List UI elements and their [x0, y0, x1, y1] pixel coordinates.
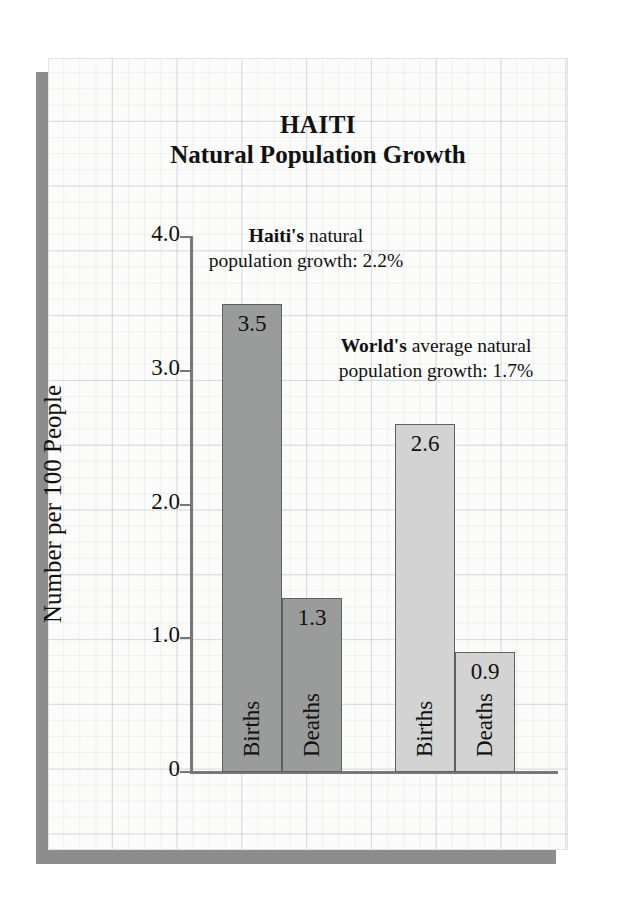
bar-category-label: Births: [239, 701, 265, 757]
bar-category-label: Deaths: [299, 693, 325, 757]
chart-page: HAITI Natural Population Growth Haiti's …: [0, 0, 636, 908]
bar-value-label: 1.3: [283, 605, 341, 631]
bar: 3.5Births: [222, 304, 282, 772]
bar-value-label: 0.9: [456, 659, 514, 685]
bar-category-label: Births: [412, 701, 438, 757]
y-tick-mark: [180, 771, 191, 773]
bar-value-label: 3.5: [223, 311, 281, 337]
plot-area: 3.5Births1.3Deaths2.6Births0.9Deaths: [0, 0, 636, 908]
y-tick-mark: [180, 236, 191, 238]
y-tick-mark: [180, 370, 191, 372]
bar: 1.3Deaths: [282, 598, 342, 772]
bar-value-label: 2.6: [396, 431, 454, 457]
y-tick-mark: [180, 637, 191, 639]
bar: 2.6Births: [395, 424, 455, 772]
bar-category-label: Deaths: [472, 693, 498, 757]
y-tick-mark: [180, 504, 191, 506]
bar: 0.9Deaths: [455, 652, 515, 772]
